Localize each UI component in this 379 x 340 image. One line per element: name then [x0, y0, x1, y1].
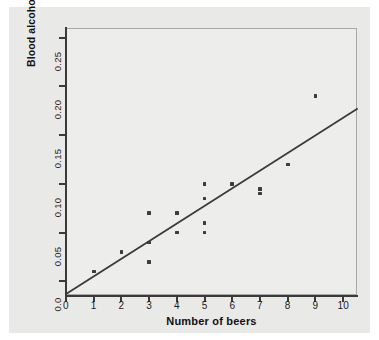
scatter-point — [258, 187, 262, 191]
scatter-point — [203, 221, 207, 225]
x-tick-label: 3 — [139, 300, 159, 311]
scatter-point — [286, 163, 290, 167]
y-tick-label: 0.15 — [52, 135, 63, 183]
x-tick-label: 1 — [84, 300, 104, 311]
x-tick-label: 9 — [305, 300, 325, 311]
y-axis-spine — [65, 27, 67, 296]
scatter-point — [258, 192, 262, 196]
scatter-point — [147, 211, 151, 215]
scatter-point — [230, 182, 234, 186]
scatter-point — [120, 250, 124, 254]
y-tick-label: 0.10 — [52, 183, 63, 231]
scatter-point — [175, 211, 179, 215]
x-tick-label: 7 — [250, 300, 270, 311]
y-tick-label: 0.05 — [52, 232, 63, 280]
y-axis-title: Blood alcohol content — [25, 0, 37, 67]
x-tick-label: 6 — [222, 300, 242, 311]
x-tick-label: 5 — [195, 300, 215, 311]
y-tick-label: 0.25 — [52, 37, 63, 85]
scatter-point — [203, 197, 207, 201]
scatter-point — [147, 241, 151, 245]
x-axis-title: Number of beers — [66, 315, 357, 327]
x-tick-label: 2 — [111, 300, 131, 311]
x-tick-label: 0 — [56, 300, 76, 311]
x-tick-label: 10 — [333, 300, 353, 311]
scatter-point — [175, 231, 179, 235]
scatter-point — [203, 182, 207, 186]
y-tick-label: 0.20 — [52, 86, 63, 134]
x-tick-label: 4 — [167, 300, 187, 311]
x-tick-label: 8 — [278, 300, 298, 311]
figure-panel: Blood alcohol content Number of beers 0.… — [9, 7, 370, 333]
scatter-point — [147, 260, 151, 264]
plot-area — [66, 28, 357, 295]
scatter-point — [314, 94, 318, 98]
scatter-point — [92, 270, 96, 274]
